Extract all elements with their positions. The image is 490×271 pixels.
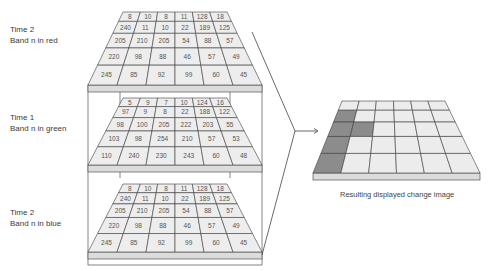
grid-cell: [346, 136, 373, 153]
cell-value: 97: [122, 108, 130, 115]
cell-value: 11: [142, 195, 149, 202]
cell-value: 22: [181, 195, 189, 202]
cell-value: 8: [164, 185, 168, 192]
grid-cell: [395, 136, 421, 153]
cell-value: 189: [199, 24, 210, 31]
grid-time1-green-slab: [88, 165, 262, 172]
cell-value: 240: [128, 152, 139, 159]
cell-value: 189: [199, 195, 210, 202]
cell-value: 11: [181, 185, 188, 192]
cell-value: 205: [159, 207, 170, 214]
cell-value: 128: [197, 185, 208, 192]
cell-value: 245: [101, 239, 112, 246]
cell-value: 48: [240, 152, 248, 159]
cell-value: 57: [208, 222, 216, 229]
cell-value: 220: [108, 222, 119, 229]
grid-time2-red: 8108111281824011102218912520521020554885…: [88, 12, 262, 92]
cell-value: 124: [197, 99, 208, 106]
cell-value: 98: [135, 222, 143, 229]
cell-value: 11: [181, 13, 188, 20]
cell-value: 8: [128, 13, 132, 20]
cell-value: 88: [159, 53, 167, 60]
cell-value: 205: [115, 37, 126, 44]
cell-value: 22: [181, 108, 189, 115]
cell-value: 18: [217, 13, 225, 20]
grid-time2-blue: 8108111281824011102218912520521020554885…: [88, 184, 262, 259]
cell-value: 243: [183, 152, 194, 159]
cell-value: 122: [219, 108, 230, 115]
grid-cell: [338, 101, 359, 110]
cell-value: 10: [161, 24, 169, 31]
cell-value: 254: [157, 135, 168, 142]
cell-value: 92: [158, 239, 166, 246]
cell-value: 45: [240, 71, 248, 78]
result-caption: Resulting displayed change image: [340, 190, 454, 199]
cell-value: 220: [108, 53, 119, 60]
cell-value: 5: [128, 99, 132, 106]
cell-value: 57: [226, 37, 234, 44]
cell-value: 98: [135, 53, 143, 60]
cell-value: 100: [137, 121, 148, 128]
cell-value: 49: [233, 53, 241, 60]
cell-value: 60: [213, 239, 221, 246]
change-detection-diagram: 8108111281824011102218912520521020554885…: [0, 0, 490, 271]
cell-value: 85: [130, 239, 138, 246]
cell-value: 7: [164, 99, 168, 106]
grid-cell: [374, 110, 394, 122]
grid-cell: [357, 101, 377, 110]
cell-value: 88: [204, 207, 212, 214]
grid-cell: [394, 101, 413, 110]
cell-value: 8: [128, 185, 132, 192]
cell-value: 57: [208, 53, 216, 60]
grid-time1-green: 5971012416979822188122981002052222035510…: [88, 98, 262, 172]
cell-value: 60: [213, 71, 221, 78]
grid-cell: [394, 122, 417, 136]
grid-time2-blue-slab: [88, 252, 262, 259]
cell-value: 88: [159, 222, 167, 229]
cell-value: 46: [184, 53, 192, 60]
cell-value: 57: [226, 207, 234, 214]
cell-value: 11: [142, 24, 149, 31]
cell-value: 205: [159, 37, 170, 44]
grid-cell: [328, 122, 354, 136]
cell-value: 54: [182, 37, 190, 44]
cell-value: 88: [204, 37, 212, 44]
cell-value: 245: [101, 71, 112, 78]
cell-value: 205: [115, 207, 126, 214]
cell-value: 128: [197, 13, 208, 20]
cell-value: 85: [130, 71, 138, 78]
grid-cell: [431, 110, 455, 122]
cell-value: 10: [161, 195, 169, 202]
grid-time2-red-slab: [88, 85, 262, 92]
grid-cell: [334, 110, 357, 122]
cell-value: 10: [144, 13, 152, 20]
cell-value: 99: [185, 71, 193, 78]
grid-result-change-slab: [313, 173, 480, 180]
cell-value: 22: [181, 24, 189, 31]
cell-value: 230: [156, 152, 167, 159]
cell-value: 188: [199, 108, 210, 115]
grid-cell: [350, 122, 374, 136]
cell-value: 210: [137, 207, 148, 214]
grid-result-change: [313, 101, 480, 180]
grid-cell: [440, 136, 471, 153]
grid-cell: [371, 136, 396, 153]
cell-value: 110: [101, 152, 112, 159]
grid-cell: [321, 136, 350, 153]
cell-value: 46: [184, 222, 192, 229]
cell-value: 8: [163, 108, 167, 115]
cell-value: 60: [213, 152, 221, 159]
cell-value: 54: [182, 207, 190, 214]
grid-cell: [373, 122, 395, 136]
grid-cell: [313, 153, 346, 173]
cell-value: 53: [233, 135, 241, 142]
grid-cell: [341, 153, 371, 173]
cell-value: 98: [117, 121, 125, 128]
cell-value: 240: [120, 24, 131, 31]
cell-value: 210: [137, 37, 148, 44]
cell-value: 203: [202, 121, 213, 128]
cell-value: 18: [217, 185, 225, 192]
cell-value: 45: [240, 239, 248, 246]
cell-value: 57: [208, 135, 216, 142]
cell-value: 210: [182, 135, 193, 142]
